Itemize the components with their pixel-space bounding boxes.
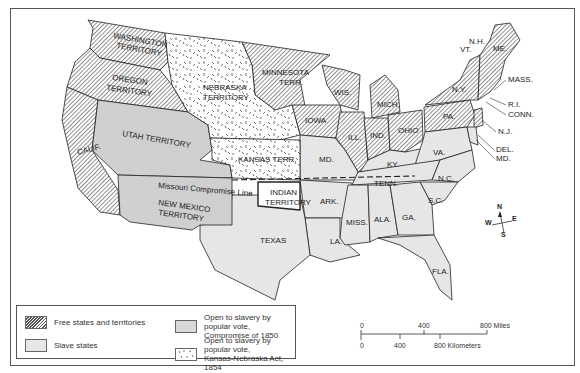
svg-text:LA.: LA. bbox=[330, 237, 342, 246]
svg-text:TEXAS: TEXAS bbox=[260, 236, 286, 245]
svg-text:TERRITORY: TERRITORY bbox=[203, 93, 250, 102]
michigan bbox=[370, 75, 400, 118]
svg-text:TERRITORY: TERRITORY bbox=[265, 198, 312, 207]
scale-bar bbox=[360, 330, 500, 342]
dashed-swatch-icon bbox=[175, 348, 197, 361]
svg-text:N.Y.: N.Y. bbox=[452, 85, 467, 94]
svg-text:NEBRASKA: NEBRASKA bbox=[203, 83, 247, 92]
svg-text:N.C.: N.C. bbox=[438, 174, 454, 183]
svg-text:VA.: VA. bbox=[433, 148, 445, 157]
compass-arrow-icon bbox=[482, 203, 522, 243]
svg-text:MICH.: MICH. bbox=[377, 100, 400, 109]
svg-text:TERR.: TERR. bbox=[279, 78, 303, 87]
svg-text:N.H.: N.H. bbox=[469, 37, 485, 46]
dotted-swatch-icon bbox=[175, 320, 197, 333]
legend-item-free: Free states and territories bbox=[25, 316, 145, 329]
svg-text:CONN.: CONN. bbox=[508, 110, 534, 119]
svg-text:OHIO: OHIO bbox=[398, 126, 418, 135]
svg-text:MISS.: MISS. bbox=[346, 218, 368, 227]
legend-item-1854: Open to slavery by popular vote, Kansas-… bbox=[175, 336, 295, 372]
svg-text:ME.: ME. bbox=[493, 44, 507, 53]
new-jersey bbox=[474, 108, 483, 128]
svg-text:MD.: MD. bbox=[496, 154, 511, 163]
svg-text:PA.: PA. bbox=[443, 112, 455, 121]
svg-text:MASS.: MASS. bbox=[508, 75, 533, 84]
svg-text:R.I.: R.I. bbox=[508, 100, 520, 109]
distance-scale: 0 400 800 Miles 0 400 800 Kilometers bbox=[360, 318, 560, 348]
new-england bbox=[478, 23, 520, 100]
svg-text:INDIAN: INDIAN bbox=[270, 188, 297, 197]
hatch-swatch-icon bbox=[25, 316, 47, 329]
legend-item-slave: Slave states bbox=[25, 339, 98, 352]
svg-text:DEL.: DEL. bbox=[496, 145, 514, 154]
svg-text:N.J.: N.J. bbox=[498, 127, 512, 136]
svg-text:MD.: MD. bbox=[319, 155, 334, 164]
svg-text:IND.: IND. bbox=[370, 131, 386, 140]
svg-text:MINNESOTA: MINNESOTA bbox=[262, 68, 310, 77]
svg-text:TENN.: TENN. bbox=[374, 179, 398, 188]
svg-text:ILL.: ILL. bbox=[348, 133, 361, 142]
svg-text:GA.: GA. bbox=[402, 213, 416, 222]
svg-text:ALA.: ALA. bbox=[374, 215, 391, 224]
compass-rose: N W E S bbox=[482, 203, 522, 243]
svg-text:WIS.: WIS. bbox=[334, 88, 351, 97]
svg-text:S.C.: S.C. bbox=[428, 196, 444, 205]
svg-text:KY.: KY. bbox=[387, 160, 399, 169]
gray-swatch-icon bbox=[25, 339, 47, 352]
svg-text:ARK.: ARK. bbox=[320, 197, 339, 206]
svg-text:FLA.: FLA. bbox=[432, 267, 449, 276]
svg-text:KANSAS TERR.: KANSAS TERR. bbox=[238, 155, 297, 164]
map-legend: Free states and territories Slave states… bbox=[16, 305, 296, 359]
new-york bbox=[425, 55, 480, 105]
svg-text:IOWA: IOWA bbox=[305, 116, 327, 125]
svg-text:VT.: VT. bbox=[460, 45, 472, 54]
